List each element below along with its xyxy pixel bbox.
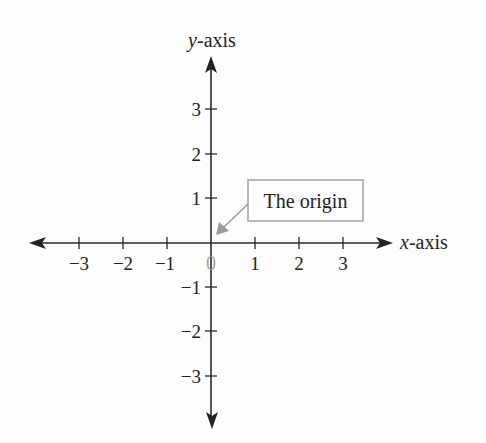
x-tick-label: −3 (69, 253, 89, 274)
y-tick-label: 3 (192, 99, 202, 120)
origin-callout-text: The origin (264, 190, 348, 213)
y-tick-label: 2 (192, 144, 202, 165)
x-tick-label: 3 (338, 253, 348, 274)
origin-zero-label: 0 (206, 252, 216, 274)
y-tick-label: 1 (192, 188, 202, 209)
y-tick-label: −1 (181, 277, 201, 298)
coordinate-plane: −3 −2 −1 1 2 3 0 3 2 1 −1 −2 −3 y-axis x… (0, 0, 486, 443)
origin-callout-pointer-line (223, 204, 248, 228)
y-tick-label: −3 (181, 366, 201, 387)
y-axis-title: y-axis (186, 29, 236, 52)
y-tick-label: −2 (181, 321, 201, 342)
x-tick-label: 1 (250, 253, 260, 274)
x-tick-label: 2 (294, 253, 304, 274)
x-tick-label: −1 (155, 253, 175, 274)
x-axis-title: x-axis (399, 231, 448, 253)
x-tick-label: −2 (113, 253, 133, 274)
y-axis-down-arrow-icon (206, 412, 218, 429)
